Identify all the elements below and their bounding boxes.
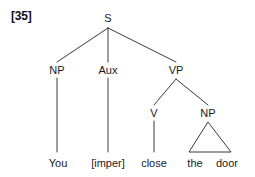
tree-edge-s-to-vp <box>108 28 176 62</box>
tree-node-v: V <box>150 108 157 119</box>
tree-edge-vp-to-np2 <box>176 79 208 105</box>
tree-node-np1: NP <box>49 65 64 76</box>
np-triangle <box>189 122 231 152</box>
tree-leaf-l5: door <box>216 158 238 169</box>
tree-leaf-l1: You <box>49 158 68 169</box>
tree-leaf-l2: [imper] <box>91 158 125 169</box>
tree-node-aux: Aux <box>99 65 118 76</box>
tree-leaf-l3: close <box>141 158 167 169</box>
tree-node-vp: VP <box>169 65 184 76</box>
tree-leaf-l4: the <box>187 158 202 169</box>
tree-node-s: S <box>104 13 111 24</box>
tree-edge-s-to-np1 <box>57 28 108 62</box>
tree-edge-vp-to-v <box>154 79 176 105</box>
syntax-tree-figure: [35] SNPAuxVPVNP You[imper]closethedoor <box>0 0 255 177</box>
syntax-tree-graphic <box>0 0 255 177</box>
tree-node-np2: NP <box>200 108 215 119</box>
tree-edges <box>57 28 208 152</box>
np-constituent-triangle <box>189 122 231 152</box>
